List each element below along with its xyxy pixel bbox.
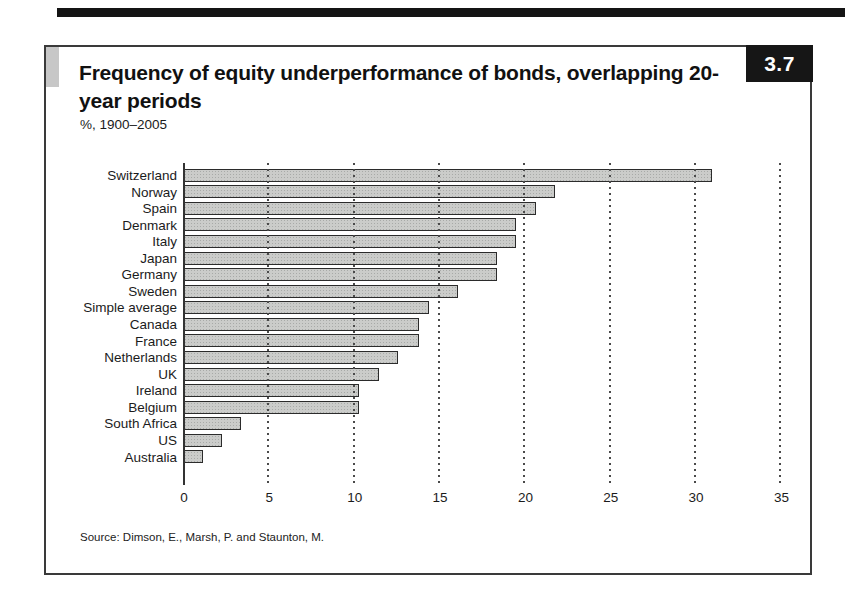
category-label: France [46, 334, 177, 349]
bar [183, 268, 497, 281]
x-tick-label-15: 15 [433, 490, 448, 505]
category-label: Netherlands [46, 350, 177, 365]
bar-row-uk: UK [46, 366, 814, 383]
bar [183, 434, 222, 447]
bar [183, 169, 712, 182]
bar-row-italy: Italy [46, 233, 814, 250]
bar [183, 235, 516, 248]
bar-row-japan: Japan [46, 250, 814, 267]
x-axis-tick-labels: 05101520253035 [46, 490, 814, 508]
bar-row-norway: Norway [46, 184, 814, 201]
bar-row-sweden: Sweden [46, 283, 814, 300]
bar [183, 351, 398, 364]
x-tick-label-25: 25 [603, 490, 618, 505]
bar [183, 417, 241, 430]
category-label: Norway [46, 185, 177, 200]
bar-row-south-africa: South Africa [46, 415, 814, 432]
gridline-10 [353, 163, 355, 485]
y-axis-line [183, 163, 185, 485]
bar-row-spain: Spain [46, 200, 814, 217]
bar [183, 401, 359, 414]
bar [183, 450, 203, 463]
bar-row-us: US [46, 432, 814, 449]
bar [183, 301, 429, 314]
bar [183, 252, 497, 265]
gridline-5 [267, 163, 269, 485]
top-rule-bar [57, 8, 845, 17]
category-label: Germany [46, 267, 177, 282]
bar-row-germany: Germany [46, 266, 814, 283]
category-label: Denmark [46, 218, 177, 233]
figure-frame: 3.7 Frequency of equity underperformance… [44, 45, 812, 575]
bar-row-ireland: Ireland [46, 382, 814, 399]
category-label: US [46, 433, 177, 448]
plot-area: SwitzerlandNorwaySpainDenmarkItalyJapanG… [46, 163, 814, 485]
category-label: Italy [46, 234, 177, 249]
gridline-30 [694, 163, 696, 485]
chart-subtitle: %, 1900–2005 [80, 117, 810, 132]
page: 3.7 Frequency of equity underperformance… [0, 0, 852, 609]
category-label: Sweden [46, 284, 177, 299]
bar-row-australia: Australia [46, 449, 814, 466]
category-label: Canada [46, 317, 177, 332]
source-note: Source: Dimson, E., Marsh, P. and Staunt… [80, 531, 324, 543]
category-label: Australia [46, 450, 177, 465]
bar [183, 384, 359, 397]
bar-row-canada: Canada [46, 316, 814, 333]
gridline-15 [438, 163, 440, 485]
bar-row-simple-average: Simple average [46, 299, 814, 316]
bar [183, 318, 419, 331]
bar [183, 185, 555, 198]
category-label: Switzerland [46, 168, 177, 183]
category-label: South Africa [46, 416, 177, 431]
x-tick-label-35: 35 [774, 490, 789, 505]
bar-row-netherlands: Netherlands [46, 349, 814, 366]
bar-row-belgium: Belgium [46, 399, 814, 416]
bar-row-switzerland: Switzerland [46, 167, 814, 184]
x-tick-label-20: 20 [518, 490, 533, 505]
gridline-20 [523, 163, 525, 485]
gridline-35 [779, 163, 781, 485]
category-label: Spain [46, 201, 177, 216]
x-tick-label-10: 10 [347, 490, 362, 505]
bar [183, 218, 516, 231]
x-tick-label-0: 0 [180, 490, 188, 505]
figure-number-badge: 3.7 [746, 45, 813, 82]
bar-row-france: France [46, 333, 814, 350]
category-label: Belgium [46, 400, 177, 415]
category-label: Simple average [46, 300, 177, 315]
category-label: Ireland [46, 383, 177, 398]
category-label: UK [46, 367, 177, 382]
category-label: Japan [46, 251, 177, 266]
corner-accent-block [46, 47, 59, 87]
figure-number: 3.7 [764, 52, 795, 76]
x-tick-label-30: 30 [689, 490, 704, 505]
bar [183, 202, 536, 215]
bar-row-denmark: Denmark [46, 217, 814, 234]
bar [183, 285, 458, 298]
bar [183, 334, 419, 347]
bar [183, 368, 379, 381]
chart-title: Frequency of equity underperformance of … [79, 59, 729, 115]
x-tick-label-5: 5 [266, 490, 274, 505]
gridline-25 [609, 163, 611, 485]
